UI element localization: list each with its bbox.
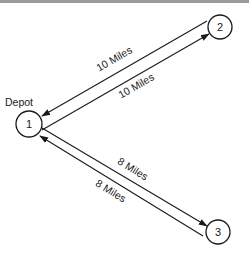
arrow-line xyxy=(42,21,207,116)
node-1: 1 xyxy=(16,111,42,137)
node-label: 2 xyxy=(217,21,223,33)
node-2: 2 xyxy=(208,15,232,39)
arrow-line xyxy=(42,128,207,226)
node-label: 3 xyxy=(215,226,221,238)
edge-label-2-1: 10 Miles xyxy=(94,44,134,74)
edge-3-to-1: 8 Miles xyxy=(40,136,203,236)
edge-1-to-3: 8 Miles xyxy=(42,128,207,226)
node-3: 3 xyxy=(206,220,230,244)
depot-label: Depot xyxy=(5,96,33,108)
routing-diagram: 10 Miles 10 Miles 8 Miles 8 Miles Depot … xyxy=(0,0,249,256)
edge-label-3-1: 8 Miles xyxy=(94,177,129,205)
edge-label-1-2: 10 Miles xyxy=(116,71,156,101)
node-label: 1 xyxy=(26,118,32,130)
edge-label-1-3: 8 Miles xyxy=(116,155,151,183)
arrow-line xyxy=(40,136,203,236)
edge-2-to-1: 10 Miles xyxy=(42,21,207,116)
